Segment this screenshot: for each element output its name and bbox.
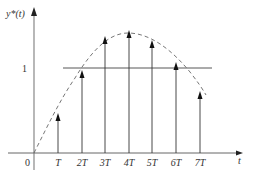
arrow-up-icon	[150, 40, 155, 48]
sample-impulses	[58, 34, 200, 153]
arrow-up-icon	[127, 30, 132, 38]
y-axis-label: y*(t)	[5, 8, 26, 20]
y-axis-arrow-icon	[31, 7, 37, 16]
sampled-signal-diagram: y*(t) 1 0 T 2T 3T 4T 5T 6T 7T t	[0, 0, 254, 180]
envelope-curve	[34, 33, 206, 153]
y-tick-1: 1	[22, 63, 27, 74]
arrow-up-icon	[198, 91, 203, 99]
x-tick-5T: 5T	[147, 157, 159, 168]
arrow-up-icon	[56, 113, 61, 121]
x-tick-3T: 3T	[99, 157, 112, 168]
x-tick-2T: 2T	[77, 157, 89, 168]
x-tick-T: T	[55, 157, 62, 168]
x-tick-6T: 6T	[171, 157, 183, 168]
x-tick-4T: 4T	[124, 157, 136, 168]
arrow-up-icon	[80, 70, 85, 78]
origin-label: 0	[25, 157, 30, 168]
x-axis-label: t	[238, 155, 241, 166]
arrow-up-icon	[174, 62, 179, 70]
x-tick-7T: 7T	[195, 157, 207, 168]
